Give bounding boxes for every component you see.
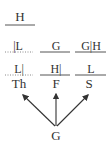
day-label-saturday: S [85, 76, 92, 91]
row1-label-1: |L [13, 39, 23, 53]
arrow-to-saturday [57, 95, 88, 126]
top-tone-label: H [15, 9, 24, 24]
source-label: G [51, 128, 60, 143]
row1-label-2: G [52, 39, 61, 53]
row2-label-1: L| [14, 62, 24, 76]
row2-label-2: H| [50, 62, 61, 76]
tone-diagram: H |L G G|H L| H| L Th F S G [0, 0, 112, 151]
arrow-to-thursday [23, 95, 55, 126]
diagram-svg: H |L G G|H L| H| L Th F S G [0, 0, 112, 151]
row1-label-3: G|H [81, 39, 101, 53]
day-label-friday: F [52, 76, 59, 91]
day-label-thursday: Th [12, 76, 27, 91]
row2-label-3: L [87, 62, 94, 76]
